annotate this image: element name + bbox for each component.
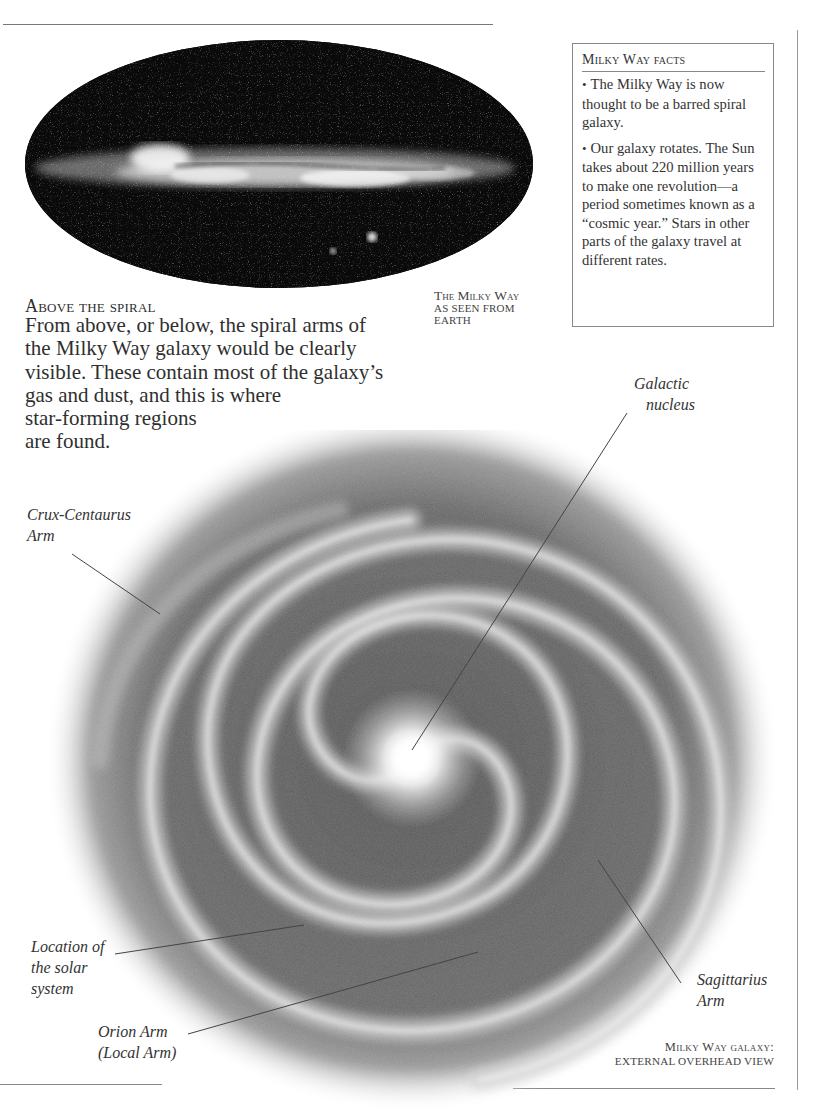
right-margin-rule	[797, 30, 798, 1090]
label-solar-system-location: Location of the solar system	[31, 936, 104, 999]
galaxy-overhead-illustration	[40, 430, 780, 1113]
label-galactic-nucleus: Galactic nucleus	[634, 373, 695, 415]
sky-image-graphic	[25, 40, 533, 288]
top-rule	[3, 24, 493, 25]
galaxy-caption: Milky Way galaxy: External overhead view	[615, 1040, 774, 1068]
bullet-icon: •	[582, 141, 587, 156]
bullet-icon: •	[582, 77, 587, 92]
galaxy-graphic	[40, 430, 780, 1113]
fact-item: •Our galaxy rotates. The Sun takes about…	[582, 139, 765, 270]
facts-box: Milky Way facts •The Milky Way is now th…	[572, 43, 774, 327]
milky-way-sky-image	[25, 40, 533, 288]
label-crux-centaurus-arm: Crux-Centaurus Arm	[27, 504, 131, 546]
facts-title: Milky Way facts	[582, 52, 765, 72]
fact-item: •The Milky Way is now thought to be a ba…	[582, 75, 765, 132]
sky-image-caption: The Milky Way as seen from Earth	[434, 290, 519, 326]
label-sagittarius-arm: Sagittarius Arm	[697, 969, 767, 1011]
label-orion-arm: Orion Arm (Local Arm)	[98, 1021, 176, 1063]
